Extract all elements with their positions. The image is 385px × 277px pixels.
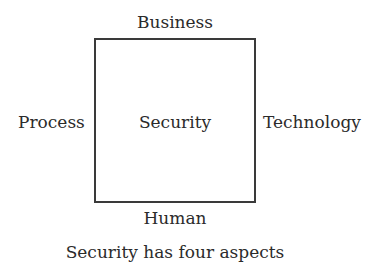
label-technology: Technology bbox=[263, 112, 361, 132]
label-security: Security bbox=[139, 112, 211, 132]
label-business: Business bbox=[137, 12, 213, 32]
label-process: Process bbox=[18, 112, 85, 132]
figure-caption: Security has four aspects bbox=[66, 242, 285, 262]
label-human: Human bbox=[144, 208, 207, 228]
